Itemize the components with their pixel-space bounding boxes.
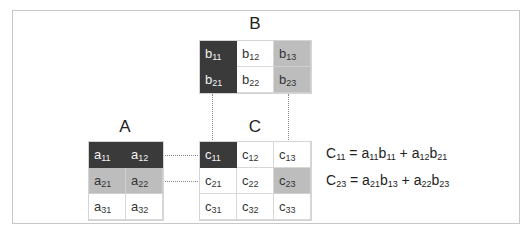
matrix-cell-c11: c11 <box>200 142 237 168</box>
cell-symbol: a31 <box>94 199 111 214</box>
cell-symbol: a11 <box>94 147 111 162</box>
cell-symbol: b11 <box>205 46 222 61</box>
matrix-cell-c31: c31 <box>200 194 237 220</box>
cell-symbol: c21 <box>205 173 222 188</box>
equation-c11: C11 = a11b11 + a12b21 <box>326 145 447 161</box>
matrix-cell-b22: b22 <box>237 67 274 93</box>
matrix-cell-a31: a31 <box>89 194 126 220</box>
matrix-b: b11b12b13b21b22b23 <box>199 40 312 94</box>
matrix-cell-c12: c12 <box>237 142 274 168</box>
guide-line-a-row1 <box>162 155 200 156</box>
cell-symbol: c33 <box>279 199 296 214</box>
equation-lhs: C23 <box>326 172 346 188</box>
equation-term-b: b23 <box>432 172 450 188</box>
matrix-a-label: A <box>105 117 145 137</box>
equation-term-a: a21 <box>362 172 380 188</box>
equation-term-b: b21 <box>430 145 448 161</box>
matrix-cell-c32: c32 <box>237 194 274 220</box>
matrix-cell-a12: a12 <box>126 142 163 168</box>
matrix-cell-a21: a21 <box>89 168 126 194</box>
matrix-cell-c23: c23 <box>274 168 311 194</box>
matrix-cell-c13: c13 <box>274 142 311 168</box>
cell-symbol: b12 <box>242 46 259 61</box>
matrix-a: a11a12a21a22a31a32 <box>88 141 164 221</box>
cell-symbol: a22 <box>131 173 148 188</box>
equation-term-a: a22 <box>414 172 432 188</box>
matrix-cell-a32: a32 <box>126 194 163 220</box>
equation-term-a: a11 <box>361 145 378 161</box>
cell-symbol: c22 <box>242 173 259 188</box>
matrix-c-label: C <box>235 117 275 137</box>
equation-lhs: C11 <box>326 145 345 161</box>
cell-symbol: b22 <box>242 72 259 87</box>
cell-symbol: b13 <box>279 46 296 61</box>
cell-symbol: a32 <box>131 199 148 214</box>
matrix-cell-b23: b23 <box>274 67 311 93</box>
matrix-cell-c33: c33 <box>274 194 311 220</box>
cell-symbol: c12 <box>242 147 259 162</box>
cell-symbol: b23 <box>279 72 296 87</box>
matrix-cell-b11: b11 <box>200 41 237 67</box>
cell-symbol: c31 <box>205 199 222 214</box>
cell-symbol: c11 <box>205 147 221 162</box>
matrix-b-label: B <box>235 14 275 34</box>
equation-term-a: a12 <box>412 145 430 161</box>
cell-symbol: c23 <box>279 173 296 188</box>
equation-c23: C23 = a21b13 + a22b23 <box>326 172 449 188</box>
cell-symbol: c32 <box>242 199 259 214</box>
cell-symbol: b21 <box>205 72 222 87</box>
equation-term-b: b13 <box>380 172 398 188</box>
cell-symbol: a21 <box>94 173 111 188</box>
matrix-cell-c21: c21 <box>200 168 237 194</box>
matrix-cell-b21: b21 <box>200 67 237 93</box>
matrix-cell-c22: c22 <box>237 168 274 194</box>
cell-symbol: a12 <box>131 147 148 162</box>
cell-symbol: c13 <box>279 147 296 162</box>
matrix-cell-a22: a22 <box>126 168 163 194</box>
matrix-cell-a11: a11 <box>89 142 126 168</box>
guide-line-b-col1 <box>212 94 213 142</box>
equation-term-b: b11 <box>379 145 396 161</box>
matrix-cell-b12: b12 <box>237 41 274 67</box>
matrix-cell-b13: b13 <box>274 41 311 67</box>
matrix-c: c11c12c13c21c22c23c31c32c33 <box>199 141 312 221</box>
